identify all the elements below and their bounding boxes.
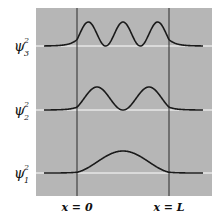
svg-text:2: 2 <box>23 113 29 122</box>
svg-text:2: 2 <box>23 163 29 172</box>
label-psi2: ψ 2 2 <box>14 100 29 122</box>
svg-text:2: 2 <box>23 36 29 45</box>
label-psi1: ψ 2 1 <box>14 163 29 185</box>
svg-text:2: 2 <box>23 100 29 109</box>
plot-background <box>36 8 212 196</box>
label-x-0: x = 0 <box>60 201 92 214</box>
label-x-L: x = L <box>152 201 184 214</box>
svg-text:3: 3 <box>24 49 29 58</box>
probability-density-diagram: ψ 2 3 ψ 2 2 ψ 2 1 x = 0 x = L <box>0 0 222 223</box>
label-psi3: ψ 2 3 <box>14 36 29 58</box>
svg-text:1: 1 <box>24 176 29 185</box>
